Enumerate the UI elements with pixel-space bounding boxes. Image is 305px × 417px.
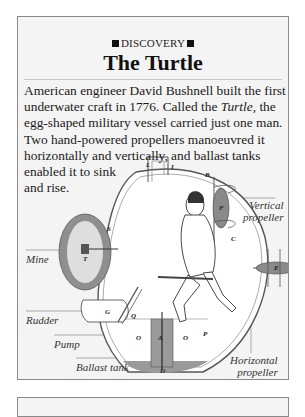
svg-text:P: P: [203, 330, 208, 338]
article-body: American engineer David Bushnell built t…: [24, 83, 286, 196]
label-mine: Mine: [26, 253, 49, 265]
article-card: DISCOVERY The Turtle: [17, 16, 289, 380]
body-line: and rise.: [24, 180, 286, 196]
svg-text:O: O: [183, 334, 188, 342]
body-line: horizontally and vertically, and ballast…: [24, 148, 286, 164]
vessel-name: Turtle: [221, 99, 253, 114]
body-line: Two hand-powered propellers manoeuvred i…: [24, 132, 286, 148]
label-rudder: Rudder: [26, 314, 58, 326]
svg-text:T: T: [83, 255, 88, 263]
body-line: egg-shaped military vessel carried just …: [24, 115, 286, 131]
svg-text:S: S: [107, 225, 111, 233]
next-card-edge: [17, 397, 289, 417]
svg-text:G: G: [105, 308, 110, 316]
label-vertical-propeller: Vertical propeller: [243, 199, 284, 223]
svg-text:A: A: [157, 334, 163, 342]
svg-text:O: O: [136, 334, 141, 342]
body-line: enabled it to sink: [24, 164, 286, 180]
label-pump: Pump: [54, 338, 80, 350]
label-ballast-tank: Ballast tank: [76, 361, 129, 373]
label-horizontal-propeller: Horizontal propeller: [230, 354, 278, 378]
svg-text:F: F: [219, 204, 224, 212]
svg-text:E: E: [273, 264, 279, 272]
body-line: American engineer David Bushnell built t…: [24, 83, 286, 99]
svg-text:Q: Q: [131, 312, 136, 320]
body-line: underwater craft in 1776. Called the Tur…: [24, 99, 286, 115]
svg-text:D: D: [159, 367, 165, 375]
svg-text:C: C: [231, 235, 236, 243]
